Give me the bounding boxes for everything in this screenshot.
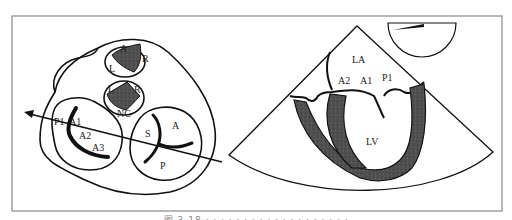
tricuspid-label-p: P (160, 160, 166, 171)
pulmonary-label-l: L (109, 63, 115, 74)
diagram-canvas: A R L L R NC P1 A1 A2 A3 S A P (0, 0, 512, 220)
arrowhead-icon (24, 110, 34, 118)
aortic-label-nc: NC (117, 108, 131, 119)
tricuspid-valve: S A P (130, 107, 202, 180)
pulmonary-label-r: R (142, 53, 149, 64)
left-panel-short-axis: A R L L R NC P1 A1 A2 A3 S A P (24, 39, 222, 194)
label-la: LA (352, 54, 366, 65)
diagram-figure: A R L L R NC P1 A1 A2 A3 S A P (0, 0, 512, 220)
label-p1: P1 (382, 72, 393, 83)
tricuspid-label-s: S (145, 128, 151, 139)
atrial-appendage-outline (54, 48, 98, 92)
label-lv: LV (366, 136, 379, 147)
aortic-label-r: R (134, 84, 141, 95)
pulmonary-valve: A R L (105, 43, 149, 77)
aortic-label-l: L (108, 83, 114, 94)
mitral-label-a3: A3 (92, 142, 104, 153)
mitral-label-a2: A2 (79, 130, 91, 141)
label-a1: A1 (360, 75, 372, 86)
figure-caption: 图 3-18 · · · · · · · · · · · · · · · · ·… (0, 213, 512, 220)
orientation-indicator (388, 23, 456, 57)
aortic-valve: L R NC (104, 81, 144, 119)
pulmonary-label-a: A (120, 43, 128, 54)
right-panel-echo-sector: LA LV A2 A1 P1 (229, 23, 493, 190)
label-a2: A2 (338, 75, 350, 86)
tricuspid-label-a: A (172, 120, 180, 131)
